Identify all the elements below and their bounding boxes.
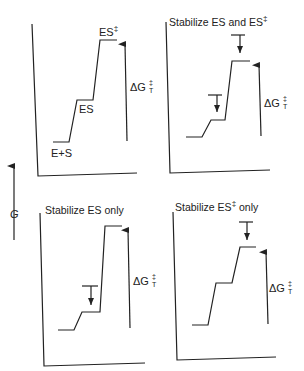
es-plus-s-label: E+S	[51, 147, 72, 159]
delta-g-sub: T	[149, 87, 154, 94]
g-axis-label: G	[10, 208, 19, 220]
panel-title: Stabilize ES and ES‡	[169, 14, 267, 28]
delta-g-arrow	[125, 44, 127, 141]
delta-g-label: ΔG	[264, 97, 280, 109]
panel-stabilize-es-only	[40, 213, 145, 366]
delta-g-sup: ‡	[288, 280, 292, 287]
delta-g-sup: ‡	[152, 273, 156, 280]
delta-g-arrow	[259, 65, 261, 136]
energy-profile	[192, 247, 256, 325]
axes	[166, 22, 270, 173]
panel-reference	[32, 24, 137, 176]
delta-g-label: ΔG	[269, 282, 285, 294]
panel-stabilize-both	[166, 22, 270, 173]
free-energy-diagram: G ES‡ ES E+S ΔG ‡ T Stabilize ES and ES‡…	[0, 0, 304, 371]
delta-g-sub: T	[283, 103, 288, 110]
delta-g-sup: ‡	[149, 79, 153, 86]
ts-level-label: ES‡	[99, 24, 118, 38]
axes	[173, 212, 276, 360]
delta-g-sub: T	[288, 288, 293, 295]
delta-g-arrow	[266, 252, 268, 324]
delta-g-sup: ‡	[283, 95, 287, 102]
es-level-label: ES	[79, 103, 94, 115]
energy-profile	[186, 61, 250, 137]
energy-profile	[53, 40, 117, 142]
panel-title: Stabilize ES‡ only	[175, 199, 259, 213]
panel-title: Stabilize ES only	[45, 204, 125, 216]
energy-profile	[58, 226, 122, 330]
delta-g-sub: T	[152, 281, 157, 288]
panel-stabilize-ts-only	[173, 212, 276, 360]
delta-g-label: ΔG	[133, 275, 149, 287]
delta-g-label: ΔG	[130, 81, 146, 93]
delta-g-arrow	[128, 230, 130, 328]
